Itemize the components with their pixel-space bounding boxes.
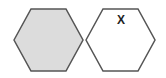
- hexagon-filled[interactable]: [14, 9, 83, 71]
- hexagon-diagram: X: [0, 0, 166, 78]
- hexagon-x-mark: X: [117, 13, 125, 27]
